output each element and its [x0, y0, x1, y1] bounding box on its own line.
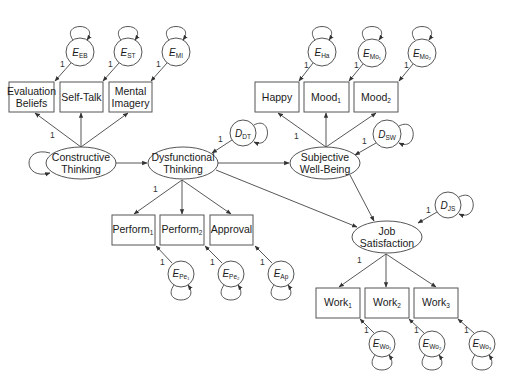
svg-text:Satisfaction: Satisfaction — [360, 237, 414, 249]
sem-diagram: EEB EST EMI 1 1 1 Evaluation Beliefs Sel… — [0, 0, 508, 386]
indicator-work2: Work2 — [365, 288, 409, 318]
svg-text:Imagery: Imagery — [112, 97, 151, 109]
indicator-work3: Work3 — [414, 288, 458, 318]
svg-text:Thinking: Thinking — [163, 163, 203, 175]
dysfunctional-thinking-group: DDT 1 Dysfunctional Thinking 1 Perform1 … — [112, 120, 294, 300]
loading-sw-mood2 — [326, 113, 376, 147]
disturbance-d-js: DJS — [435, 192, 461, 218]
svg-text:Dysfunctional: Dysfunctional — [151, 151, 214, 163]
svg-text:Mental: Mental — [115, 85, 147, 97]
latent-constructive-thinking: Constructive Thinking — [46, 147, 116, 179]
disturbance-d-sw: DSW — [373, 120, 401, 148]
svg-text:Mood1: Mood1 — [311, 91, 341, 104]
loading-ct-evaluation-beliefs — [35, 113, 81, 147]
svg-text:Work3: Work3 — [422, 296, 450, 309]
loading-label: 1 — [260, 257, 265, 267]
svg-text:Evaluation: Evaluation — [7, 85, 56, 97]
loading-label: 1 — [414, 325, 419, 335]
error-e-wo1: EWo₁ — [369, 331, 395, 357]
loading-label: 1 — [357, 255, 362, 265]
indicator-self-talk: Self-Talk — [60, 82, 103, 112]
indicator-mood2: Mood2 — [354, 82, 398, 112]
subjective-well-being-group: EHa EMo₁ EMo₂ 1 1 1 Happy Mood1 Mood2 — [255, 27, 436, 180]
loading-label: 1 — [218, 134, 223, 144]
svg-text:Work2: Work2 — [373, 296, 401, 309]
error-e-pe2: EPe₂ — [218, 261, 244, 287]
error-e-st: EST — [114, 38, 142, 66]
loading-label: 1 — [60, 59, 65, 69]
loading-dt-perform1 — [134, 180, 182, 214]
job-satisfaction-group: DJS 1 Job Satisfaction 1 Work1 Work2 Wor… — [316, 192, 495, 370]
indicator-happy: Happy — [255, 82, 299, 112]
loading-label: 1 — [464, 325, 469, 335]
variance-loop-e-mo1 — [362, 27, 381, 41]
indicator-approval: Approval — [210, 215, 253, 245]
latent-job-satisfaction: Job Satisfaction — [352, 221, 422, 253]
loading-label: 1 — [304, 60, 309, 70]
indicator-work1: Work1 — [316, 288, 360, 318]
svg-text:Perform1: Perform1 — [113, 223, 154, 236]
error-e-ha: EHa — [308, 38, 336, 66]
loading-label: 1 — [50, 130, 55, 140]
loading-js-work1 — [339, 254, 386, 287]
indicator-perform2: Perform2 — [160, 215, 204, 245]
error-e-ap: EAp — [268, 261, 294, 287]
svg-text:Well-Being: Well-Being — [300, 163, 351, 175]
svg-text:Perform2: Perform2 — [162, 223, 203, 236]
error-e-wo3: EWo₃ — [469, 331, 495, 357]
loading-label: 1 — [426, 205, 431, 215]
error-e-mi: EMI — [162, 38, 190, 66]
svg-text:Constructive: Constructive — [52, 151, 111, 163]
loading-label: 1 — [160, 257, 165, 267]
indicator-mood1: Mood1 — [304, 82, 349, 112]
loading-label: 1 — [364, 325, 369, 335]
error-e-wo2: EWo₂ — [419, 331, 445, 357]
variance-loop-e-mo2 — [412, 27, 431, 41]
error-e-mo1: EMo₁ — [358, 39, 386, 67]
loading-label: 1 — [362, 136, 367, 146]
indicator-mental-imagery: Mental Imagery — [109, 82, 152, 112]
error-e-pe1: EPe₁ — [168, 261, 194, 287]
loading-label: 1 — [108, 59, 113, 69]
error-e-eb: EEB — [66, 38, 94, 66]
loading-dt-approval — [182, 180, 231, 214]
svg-text:Thinking: Thinking — [61, 163, 101, 175]
svg-text:Job: Job — [379, 225, 396, 237]
indicator-perform1: Perform1 — [112, 215, 155, 245]
latent-subjective-well-being: Subjective Well-Being — [290, 147, 360, 179]
loading-label: 1 — [156, 59, 161, 69]
svg-text:Work1: Work1 — [324, 296, 352, 309]
svg-text:Approval: Approval — [211, 223, 252, 235]
svg-text:Beliefs: Beliefs — [16, 97, 48, 109]
loading-label: 1 — [153, 184, 158, 194]
loading-label: 1 — [404, 60, 409, 70]
loading-label: 1 — [354, 60, 359, 70]
disturbance-d-dt: DDT — [230, 120, 256, 146]
error-e-mo2: EMo₂ — [408, 39, 436, 67]
svg-text:Subjective: Subjective — [301, 151, 350, 163]
svg-text:Self-Talk: Self-Talk — [61, 91, 102, 103]
loading-label: 1 — [294, 131, 299, 141]
svg-text:Mood2: Mood2 — [361, 91, 391, 104]
loading-ct-mental-imagery — [81, 113, 128, 147]
path-sw-to-js — [350, 175, 374, 221]
loading-js-work3 — [386, 254, 436, 287]
loading-sw-happy — [278, 113, 326, 147]
svg-text:Happy: Happy — [262, 91, 293, 103]
loading-label: 1 — [210, 257, 215, 267]
indicator-evaluation-beliefs: Evaluation Beliefs — [7, 82, 56, 112]
latent-dysfunctional-thinking: Dysfunctional Thinking — [148, 147, 218, 179]
